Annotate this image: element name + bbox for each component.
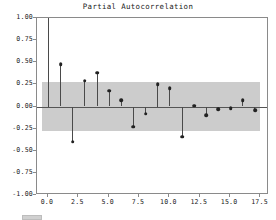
legend-swatch xyxy=(22,215,42,220)
data-point-marker xyxy=(71,140,75,144)
stem-line xyxy=(84,81,85,107)
stem-line xyxy=(169,88,170,107)
y-tick-label: -1.00 xyxy=(12,190,33,198)
y-tick-mark xyxy=(33,194,36,195)
y-axis-labels: -1.00-0.75-0.50-0.250.000.250.500.751.00 xyxy=(0,0,33,220)
x-tick-mark xyxy=(229,194,230,197)
x-tick-label: 0.0 xyxy=(41,198,54,206)
data-point-marker xyxy=(253,108,257,112)
data-point-marker xyxy=(95,71,99,75)
data-point-marker xyxy=(241,99,245,103)
y-tick-label: 0.50 xyxy=(16,57,33,65)
legend-strip-cropped xyxy=(0,213,276,220)
x-tick-label: 2.5 xyxy=(71,198,84,206)
y-tick-label: -0.75 xyxy=(12,168,33,176)
stem-line xyxy=(60,64,61,106)
x-tick-mark xyxy=(138,194,139,197)
plot-inner xyxy=(37,18,267,193)
stem-line xyxy=(133,107,134,127)
x-tick-mark xyxy=(47,194,48,197)
data-point-marker xyxy=(217,107,221,111)
data-point-marker xyxy=(168,86,172,90)
stem-line xyxy=(97,73,98,107)
y-tick-label: 0.25 xyxy=(16,79,33,87)
stem-line xyxy=(72,107,73,142)
x-tick-mark xyxy=(108,194,109,197)
stem-line xyxy=(48,18,49,107)
x-tick-label: 15.0 xyxy=(221,198,238,206)
chart-title: Partial Autocorrelation xyxy=(0,2,276,11)
stem-line xyxy=(157,84,158,106)
data-point-marker xyxy=(120,99,124,103)
x-tick-label: 7.5 xyxy=(132,198,145,206)
data-point-marker xyxy=(59,62,63,66)
y-tick-label: -0.50 xyxy=(12,146,33,154)
pacf-chart-figure: Partial Autocorrelation -1.00-0.75-0.50-… xyxy=(0,0,276,220)
stem-line xyxy=(109,91,110,107)
x-tick-mark xyxy=(168,194,169,197)
data-point-marker xyxy=(132,125,136,129)
data-point-marker xyxy=(156,83,160,87)
y-tick-label: 0.00 xyxy=(16,102,33,110)
x-tick-mark xyxy=(259,194,260,197)
x-tick-label: 17.5 xyxy=(251,198,268,206)
data-point-marker xyxy=(83,79,87,83)
x-tick-mark xyxy=(199,194,200,197)
data-point-marker xyxy=(180,135,184,139)
stem-line xyxy=(182,107,183,137)
y-tick-label: -0.25 xyxy=(12,124,33,132)
data-point-marker xyxy=(229,106,233,110)
data-point-marker xyxy=(205,114,209,118)
data-point-marker xyxy=(144,112,148,116)
data-point-marker xyxy=(192,104,196,108)
data-point-marker xyxy=(107,89,111,93)
y-tick-label: 1.00 xyxy=(16,13,33,21)
x-tick-label: 10.0 xyxy=(160,198,177,206)
y-tick-label: 0.75 xyxy=(16,35,33,43)
x-tick-mark xyxy=(77,194,78,197)
x-tick-label: 5.0 xyxy=(101,198,114,206)
plot-area xyxy=(36,17,268,194)
x-tick-label: 12.5 xyxy=(190,198,207,206)
